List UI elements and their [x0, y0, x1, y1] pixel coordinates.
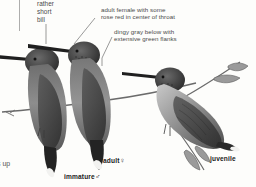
callout-female-throat-line-1: adult female with some	[101, 6, 175, 13]
callout-female-throat: adult female with some rose red in cente…	[101, 6, 175, 21]
callout-underparts-line-2: extensive green flanks	[114, 35, 177, 42]
clipped-edge-text: s up	[0, 160, 10, 167]
callout-bill-line-2: short	[37, 8, 54, 16]
male-symbol: ♂	[95, 172, 101, 181]
caption-adult-female: adult♀	[103, 156, 125, 165]
callout-underparts: dingy gray below with extensive green fl…	[114, 28, 177, 43]
caption-immature-male: immature♂	[64, 172, 101, 181]
leader-line-underparts	[102, 37, 112, 66]
caption-immature-male-label: immature	[64, 173, 95, 180]
caption-adult-female-label: adult	[103, 157, 120, 164]
figure-juvenile	[122, 62, 248, 170]
callout-bill: rather short bill	[37, 0, 54, 25]
leader-line-female-throat	[74, 18, 95, 44]
female-symbol: ♀	[120, 156, 126, 165]
illustration-plate: rather short bill adult female with some…	[0, 0, 256, 187]
callout-bill-line-1: rather	[37, 0, 54, 8]
callout-female-throat-line-2: rose red in center of throat	[101, 13, 175, 20]
callout-underparts-line-1: dingy gray below with	[114, 28, 177, 35]
caption-juvenile: juvenile	[210, 155, 236, 162]
callout-bill-line-3: bill	[37, 16, 54, 24]
